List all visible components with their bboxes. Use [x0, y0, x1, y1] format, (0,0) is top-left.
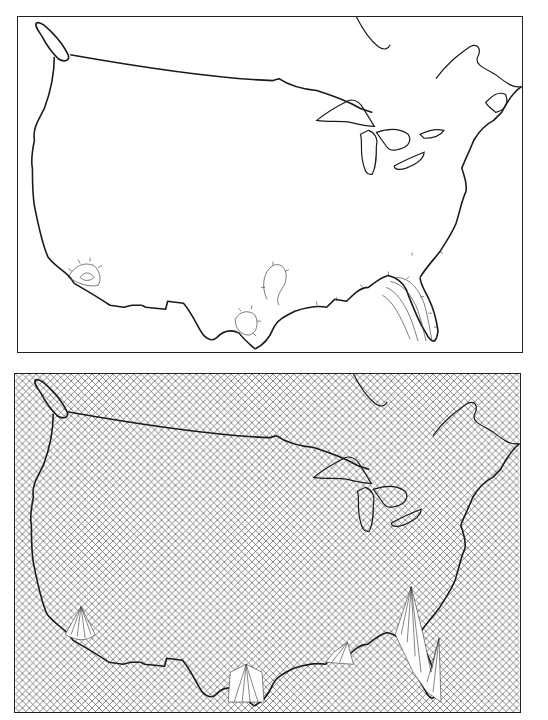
mesh-surface	[15, 374, 519, 712]
west-coast	[32, 57, 142, 308]
lake-erie	[394, 152, 424, 169]
gulf-of-st-lawrence	[436, 46, 521, 87]
lake-michigan	[360, 130, 376, 174]
perspective-surface-panel	[14, 373, 521, 713]
us-canada-border	[70, 55, 372, 113]
contour-map-panel	[17, 16, 523, 353]
gulf-coast	[255, 275, 438, 349]
hachure-ticks	[68, 252, 443, 336]
lake-superior	[317, 100, 375, 126]
lake-huron	[376, 130, 409, 151]
james-bay	[356, 17, 390, 49]
perspective-surface-map	[15, 374, 520, 712]
east-coast	[420, 87, 521, 278]
contour-map	[18, 17, 522, 352]
lake-ontario	[420, 130, 444, 139]
vancouver-island	[36, 23, 69, 61]
contour-south-texas	[235, 312, 257, 335]
contour-texas-loop	[264, 265, 286, 306]
